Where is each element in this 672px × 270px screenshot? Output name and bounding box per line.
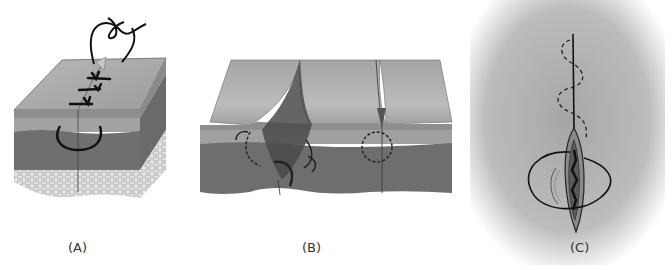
running-suture-illustration (460, 0, 672, 270)
panel-label-c: (C) (570, 240, 589, 255)
panel-c-running-suture (460, 0, 672, 270)
wound-cross-section-illustration (190, 0, 460, 270)
panel-label-b: (B) (302, 240, 321, 255)
panel-a-skin-suture (0, 0, 190, 270)
panel-b-wound-eversion (190, 0, 460, 270)
panel-label-a: (A) (68, 240, 87, 255)
skin-block-illustration (0, 0, 190, 270)
